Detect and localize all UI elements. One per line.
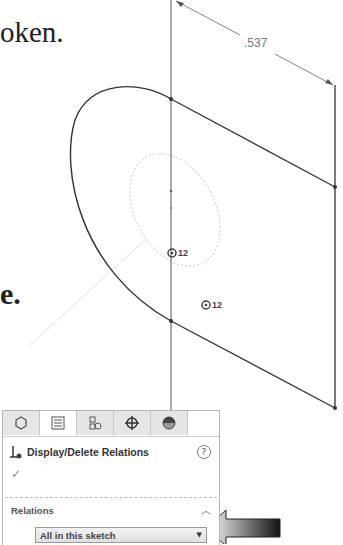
relations-icon <box>9 445 23 459</box>
dropdown-value: All in this sketch <box>40 530 116 541</box>
tab-feature-manager[interactable] <box>3 411 40 435</box>
property-manager-panel: Display/Delete Relations ? ✓ Relations ︿… <box>2 410 220 545</box>
tab-dimxpert-manager[interactable] <box>114 411 151 435</box>
config-icon <box>87 415 103 431</box>
tab-property-manager[interactable] <box>40 411 77 435</box>
relation-marker-label[interactable]: 12 <box>212 300 222 310</box>
concentric-icon <box>168 249 176 257</box>
sketch-arc <box>70 87 171 321</box>
top-edge <box>171 99 335 187</box>
relations-group-header[interactable]: Relations ︿ <box>3 498 219 522</box>
construction-line <box>30 240 145 345</box>
part-icon <box>13 415 29 431</box>
tab-display-manager[interactable] <box>151 411 188 435</box>
relations-filter-dropdown[interactable]: All in this sketch ▼ <box>35 527 207 543</box>
construction-circle <box>112 138 239 282</box>
crosshair-icon <box>124 415 140 431</box>
tab-configuration-manager[interactable] <box>77 411 114 435</box>
relation-marker-label[interactable]: 12 <box>178 248 188 258</box>
panel-header: Display/Delete Relations ? <box>3 437 219 467</box>
manager-tabs <box>3 411 219 437</box>
help-icon[interactable]: ? <box>197 445 211 459</box>
list-icon <box>50 415 66 431</box>
ok-check-icon[interactable]: ✓ <box>11 467 21 481</box>
relations-group-label: Relations <box>11 505 54 516</box>
concentric-icon <box>202 301 210 309</box>
bottom-edge <box>171 321 335 408</box>
chevron-down-icon[interactable]: ▼ <box>197 531 202 539</box>
chevron-up-icon[interactable]: ︿ <box>201 502 211 517</box>
panel-title: Display/Delete Relations <box>27 446 149 458</box>
appearance-icon <box>161 415 177 431</box>
dimension-label[interactable]: .537 <box>244 36 267 50</box>
